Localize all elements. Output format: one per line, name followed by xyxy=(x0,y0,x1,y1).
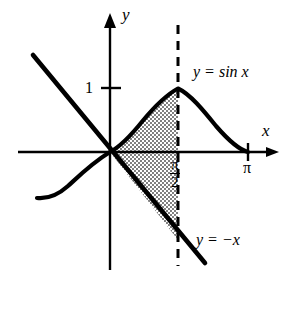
plot-canvas xyxy=(0,0,289,313)
sine-and-negative-x-plot: y x 1 π π 2 y = sin x y = −x xyxy=(0,0,289,313)
y-tick-label-one: 1 xyxy=(85,80,93,96)
fraction-numerator: π xyxy=(170,157,180,172)
x-tick-label-pi: π xyxy=(243,160,251,176)
x-tick-label-pi-over-two: π 2 xyxy=(170,157,180,190)
negative-x-line-label: y = −x xyxy=(196,232,240,248)
sine-curve-label: y = sin x xyxy=(193,64,249,80)
y-axis-label: y xyxy=(122,6,130,23)
fraction-denominator: 2 xyxy=(170,175,180,190)
x-axis-label: x xyxy=(262,122,270,139)
